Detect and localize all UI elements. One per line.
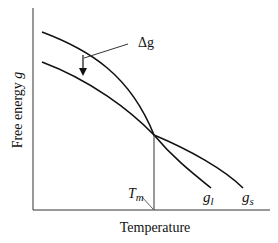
delta-g-leader — [84, 44, 128, 58]
free-energy-diagram: Δg Tm gl gs Temperature Free energy g — [0, 0, 278, 243]
delta-g-label: Δg — [138, 35, 154, 50]
tm-label: Tm — [128, 186, 144, 203]
curve-solid — [42, 62, 243, 188]
y-axis-label: Free energy g — [10, 72, 25, 149]
curve-liquid-label: gl — [203, 189, 214, 207]
delta-g-arrowhead — [79, 68, 87, 76]
x-axis-label: Temperature — [120, 220, 191, 235]
curve-solid-label: gs — [242, 189, 254, 207]
